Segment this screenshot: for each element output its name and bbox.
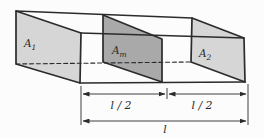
label-l2-right: l / 2	[191, 99, 212, 112]
prism-figure: A1 Am A2 l / 2 l / 2 l	[0, 0, 264, 138]
edge-bottom-front	[80, 82, 245, 83]
label-l2-left: l / 2	[110, 99, 131, 112]
label-l-total: l	[163, 123, 167, 136]
